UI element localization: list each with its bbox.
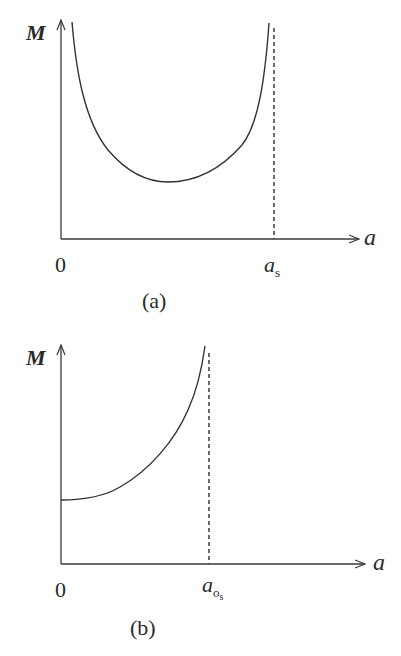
curve-b — [61, 346, 205, 500]
x-axis-label-b: a — [373, 550, 385, 574]
panel-a — [61, 20, 359, 239]
marker-label-a-os: aos — [202, 574, 223, 596]
y-axis-label-a: M — [26, 22, 46, 44]
origin-label-a: 0 — [55, 254, 66, 276]
panel-b — [61, 345, 365, 564]
curve-a — [72, 22, 269, 182]
marker-label-a-s: as — [264, 254, 280, 276]
marker-label-subscript: os — [213, 585, 223, 600]
marker-label-subscript: s — [275, 265, 280, 280]
caption-b: (b) — [130, 617, 156, 639]
origin-label-b: 0 — [55, 579, 66, 601]
figure-canvas — [0, 0, 401, 656]
marker-label-base: a — [202, 572, 213, 597]
caption-a: (a) — [142, 290, 166, 312]
marker-label-sub-s: s — [220, 591, 224, 602]
marker-label-sub-o: o — [213, 585, 220, 600]
marker-label-base: a — [264, 252, 275, 277]
x-axis-label-a: a — [364, 225, 376, 249]
y-axis-label-b: M — [26, 347, 46, 369]
